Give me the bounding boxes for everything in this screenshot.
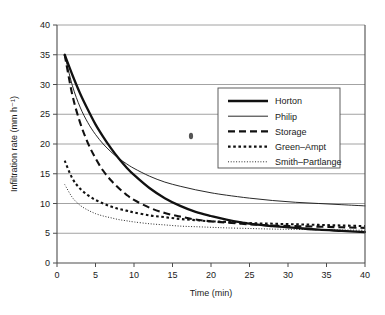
y-tick-label-5: 5	[45, 228, 50, 238]
x-tick-label-5: 5	[93, 270, 98, 280]
legend-label-philip: Philip	[275, 112, 297, 122]
y-tick-label-25: 25	[40, 109, 50, 119]
x-tick-label-35: 35	[321, 270, 331, 280]
chart-canvas: 0510152025303540 0510152025303540 Time (…	[0, 0, 385, 315]
legend-label-smith-partlange: Smith–Partlange	[275, 157, 342, 167]
x-tick-label-30: 30	[283, 270, 293, 280]
legend-label-green-ampt: Green–Ampt	[275, 142, 327, 152]
x-tick-label-20: 20	[206, 270, 216, 280]
x-axis-ticks: 0510152025303540	[54, 263, 370, 280]
y-tick-label-30: 30	[40, 80, 50, 90]
y-axis-label: Infiltration rate (mm h⁻¹)	[9, 96, 19, 192]
legend: HortonPhilipStorageGreen–AmptSmith–Partl…	[218, 88, 342, 168]
y-tick-label-10: 10	[40, 199, 50, 209]
legend-label-storage: Storage	[275, 127, 307, 137]
y-axis-ticks: 0510152025303540	[40, 20, 57, 268]
x-tick-label-10: 10	[129, 270, 139, 280]
y-tick-label-15: 15	[40, 169, 50, 179]
y-tick-label-40: 40	[40, 20, 50, 30]
y-tick-label-35: 35	[40, 50, 50, 60]
curve-smith-partlange	[65, 184, 365, 230]
x-axis-label: Time (min)	[190, 288, 233, 298]
y-tick-label-20: 20	[40, 139, 50, 149]
scan-artifact-speck	[189, 133, 193, 139]
infiltration-rate-chart: 0510152025303540 0510152025303540 Time (…	[0, 0, 385, 315]
legend-label-horton: Horton	[275, 96, 302, 106]
x-tick-label-0: 0	[54, 270, 59, 280]
y-tick-label-0: 0	[45, 258, 50, 268]
x-tick-label-15: 15	[167, 270, 177, 280]
x-tick-label-40: 40	[360, 270, 370, 280]
x-tick-label-25: 25	[244, 270, 254, 280]
